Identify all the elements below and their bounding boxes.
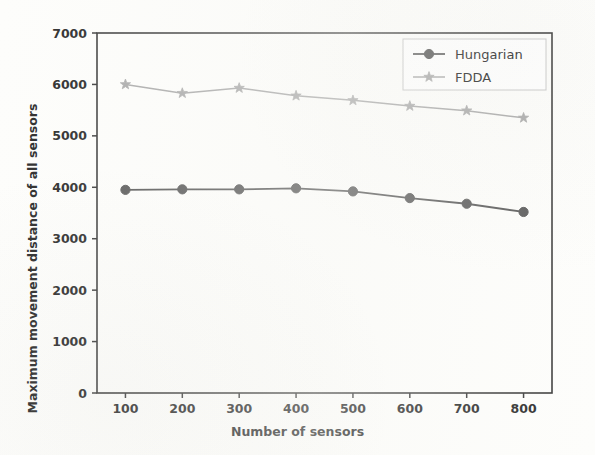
y-tick-label: 6000 [52, 77, 87, 92]
x-tick-label: 400 [283, 401, 309, 416]
data-point-marker [177, 88, 187, 98]
x-tick-label: 100 [112, 401, 138, 416]
data-point-marker [519, 207, 528, 216]
x-axis: 100200300400500600700800 [112, 393, 537, 416]
legend-label: FDDA [455, 70, 491, 85]
data-point-marker [121, 185, 130, 194]
line-chart-canvas: 0100020003000400050006000700010020030040… [0, 0, 595, 455]
data-point-marker [235, 185, 244, 194]
y-tick-label: 7000 [52, 26, 87, 41]
data-point-marker [291, 90, 301, 100]
x-tick-label: 700 [454, 401, 480, 416]
y-tick-label: 4000 [52, 180, 87, 195]
data-point-marker [120, 79, 130, 89]
x-tick-label: 500 [340, 401, 366, 416]
y-tick-label: 2000 [52, 283, 87, 298]
legend-label: Hungarian [455, 47, 523, 62]
y-tick-label: 3000 [52, 231, 87, 246]
data-point-marker [291, 184, 300, 193]
y-tick-label: 0 [78, 386, 87, 401]
data-point-marker [462, 105, 472, 115]
y-axis: 01000200030004000500060007000 [52, 26, 97, 401]
data-point-marker [462, 199, 471, 208]
chart-figure: 0100020003000400050006000700010020030040… [0, 0, 595, 455]
x-tick-label: 200 [169, 401, 195, 416]
x-axis-label: Number of sensors [0, 424, 595, 439]
y-tick-label: 1000 [52, 334, 87, 349]
series-hungarian [121, 184, 528, 217]
data-point-marker [405, 193, 414, 202]
legend-marker-circle-icon [424, 49, 433, 58]
data-point-marker [178, 185, 187, 194]
y-tick-label: 5000 [52, 128, 87, 143]
x-tick-label: 600 [397, 401, 423, 416]
data-point-marker [348, 187, 357, 196]
x-tick-label: 300 [226, 401, 252, 416]
chart-legend: HungarianFDDA [403, 39, 546, 90]
data-point-marker [234, 83, 244, 93]
data-point-marker [348, 95, 358, 105]
data-point-marker [405, 101, 415, 111]
data-point-marker [518, 112, 528, 122]
x-tick-label: 800 [511, 401, 537, 416]
